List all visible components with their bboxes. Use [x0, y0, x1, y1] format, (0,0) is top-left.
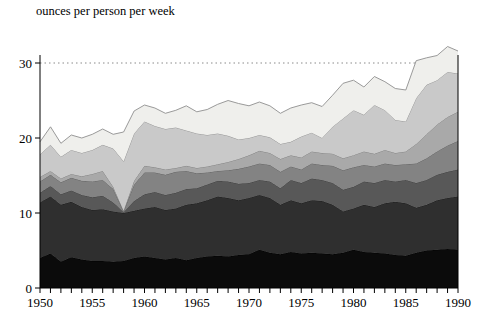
- stacked-area-chart-figure: ounces per person per week 0102030195019…: [0, 0, 489, 323]
- x-tick-label: 1965: [184, 295, 210, 310]
- y-tick-label: 0: [26, 281, 33, 296]
- x-tick-label: 1990: [445, 295, 471, 310]
- x-tick-label: 1975: [288, 295, 314, 310]
- x-tick-label: 1980: [341, 295, 367, 310]
- x-tick-label: 1960: [132, 295, 158, 310]
- chart-canvas: 0102030195019551960196519701975198019851…: [0, 0, 489, 323]
- x-tick-label: 1950: [27, 295, 53, 310]
- y-tick-label: 30: [19, 56, 32, 71]
- x-tick-label: 1985: [393, 295, 419, 310]
- y-tick-label: 10: [19, 206, 32, 221]
- x-tick-label: 1970: [236, 295, 262, 310]
- x-tick-label: 1955: [79, 295, 105, 310]
- y-tick-label: 20: [19, 131, 32, 146]
